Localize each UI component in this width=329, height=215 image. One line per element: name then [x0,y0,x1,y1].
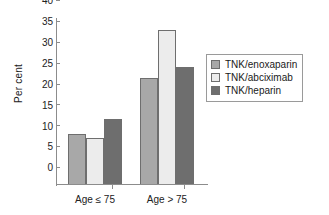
legend-swatch-heparin [211,86,220,95]
bar[interactable] [140,78,158,184]
y-axis-tick-label: 20 [42,79,56,90]
x-axis-label: Age > 75 [147,194,187,205]
y-axis-tick: 20 [42,75,56,93]
y-axis-tick-mark [56,84,60,85]
y-axis-tick-label: 5 [47,141,56,152]
y-axis-tick-label: 30 [42,37,56,48]
y-axis-tick-label: 25 [42,58,56,69]
y-axis-tick-mark [56,0,60,1]
y-axis-tick-label: 35 [42,16,56,27]
y-axis-tick-mark [56,21,60,22]
y-axis-tick: 15 [42,95,56,113]
legend-label-heparin: TNK/heparin [225,84,281,97]
bar[interactable] [158,30,176,184]
y-axis-tick-mark [56,125,60,126]
x-axis-label: Age ≤ 75 [75,194,115,205]
legend-item-enoxaparin[interactable]: TNK/enoxaparin [211,58,297,71]
y-axis-tick-label: 40 [42,0,56,6]
y-axis-tick: 10 [42,116,56,134]
legend-item-abciximab[interactable]: TNK/abciximab [211,71,297,84]
legend-item-heparin[interactable]: TNK/heparin [211,84,297,97]
y-axis-tick-mark [56,167,60,168]
legend-label-enoxaparin: TNK/enoxaparin [225,58,297,71]
x-axis-tick-mark [184,185,185,189]
y-axis-title: Per cent [13,44,24,124]
bar[interactable] [176,67,194,184]
legend-swatch-abciximab [211,73,220,82]
bar[interactable] [86,138,104,184]
x-axis-tick-mark [112,185,113,189]
bar[interactable] [68,134,86,184]
legend: TNK/enoxaparin TNK/abciximab TNK/heparin [206,54,303,102]
y-axis-tick: 35 [42,12,56,30]
bar[interactable] [104,119,122,184]
y-axis-tick: 0 [47,158,56,176]
y-axis-tick: 25 [42,54,56,72]
y-axis-tick-mark [56,63,60,64]
y-axis-tick: 5 [47,137,56,155]
bar-chart: Per cent 0510152025303540 Age ≤ 75Age > … [0,0,329,215]
y-axis-tick-label: 0 [47,162,56,173]
y-axis-tick: 30 [42,33,56,51]
y-axis-line [56,18,57,186]
y-axis-tick-mark [56,42,60,43]
plot-area: 0510152025303540 Age ≤ 75Age > 75 [56,18,208,185]
y-axis-tick-label: 15 [42,100,56,111]
y-axis-tick-mark [56,104,60,105]
y-axis-tick: 40 [42,0,56,9]
y-axis-tick-label: 10 [42,121,56,132]
legend-label-abciximab: TNK/abciximab [225,71,293,84]
x-axis-line [56,184,208,185]
legend-swatch-enoxaparin [211,60,220,69]
y-axis-tick-mark [56,146,60,147]
